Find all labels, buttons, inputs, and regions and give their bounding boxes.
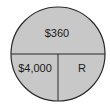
top-label: $360	[45, 27, 69, 39]
bottom-left-label: $4,000	[18, 62, 52, 74]
interest-circle-diagram: $360 $4,000 R	[0, 0, 110, 104]
bottom-right-label: R	[78, 62, 86, 74]
